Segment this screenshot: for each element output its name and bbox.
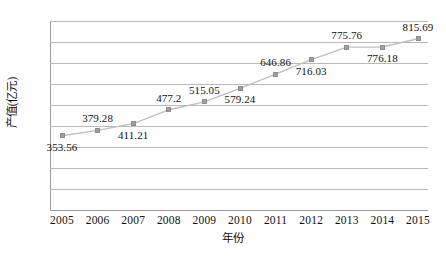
data-point-label: 353.56 [47, 142, 78, 153]
data-point-label: 579.24 [225, 94, 256, 105]
data-point-label: 379.28 [82, 113, 113, 124]
data-point-marker [166, 107, 171, 112]
data-point-marker [238, 86, 243, 91]
y-axis-title: 产值(亿元) [6, 55, 19, 151]
data-point-marker [344, 45, 349, 50]
gridline-0 [50, 210, 428, 211]
data-point-label: 646.86 [260, 57, 291, 68]
data-point-label: 815.69 [403, 22, 434, 33]
data-point-marker [95, 128, 100, 133]
data-point-label: 776.18 [367, 53, 398, 64]
data-point-marker [202, 99, 207, 104]
data-point-marker [273, 72, 278, 77]
data-point-marker [416, 36, 421, 41]
data-point-marker [380, 45, 385, 50]
data-point-label: 775.76 [331, 30, 362, 41]
plot-area: 353.56379.28411.21477.2515.05579.24646.8… [50, 21, 428, 210]
data-point-marker [309, 57, 314, 62]
line-chart: 产值(亿元) 年份 353.56379.28411.21477.2515.055… [0, 0, 446, 260]
x-tick-label: 2015 [396, 214, 440, 226]
x-axis-title: 年份 [203, 232, 263, 245]
data-point-label: 515.05 [189, 85, 220, 96]
data-point-label: 411.21 [118, 130, 148, 141]
data-point-label: 477.2 [156, 93, 181, 104]
data-point-marker [60, 133, 65, 138]
data-point-label: 716.03 [296, 66, 327, 77]
data-point-marker [131, 121, 136, 126]
